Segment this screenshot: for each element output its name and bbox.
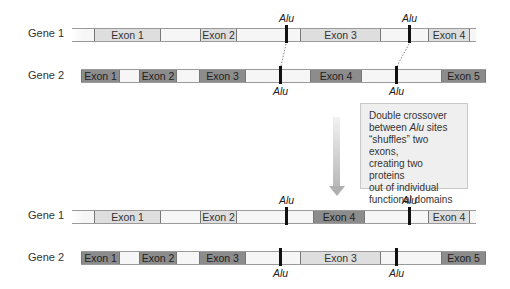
gene1-after-strand: Exon 1 Exon 2 Exon 4 Exon 4 — [72, 210, 476, 224]
gene1-after-exon4: Exon 4 — [428, 211, 470, 223]
gene2-before-label: Gene 2 — [28, 69, 64, 81]
note-line: out of individual — [369, 182, 459, 194]
note-line: “shuffles” two exons, — [369, 134, 459, 158]
gene2-before-exon5: Exon 5 — [441, 70, 486, 82]
alu-marker — [408, 207, 411, 225]
gene2-after-exon3: Exon 3 — [199, 252, 246, 264]
alu-label: Alu — [389, 85, 404, 97]
alu-marker — [285, 207, 288, 225]
alu-marker — [279, 66, 282, 84]
gene2-after-exon1: Exon 1 — [81, 252, 120, 264]
alu-label: Alu — [402, 194, 417, 206]
alu-label: Alu — [273, 85, 288, 97]
alu-label: Alu — [389, 267, 404, 279]
gene1-after-exon2: Exon 2 — [200, 211, 237, 223]
gene2-after-exon2: Exon 2 — [139, 252, 177, 264]
gene2-before-exon3: Exon 3 — [199, 70, 246, 82]
note-line: between Alu sites — [369, 122, 459, 134]
gene2-after-exon5: Exon 5 — [441, 252, 486, 264]
gene2-before-strand: Exon 1 Exon 2 Exon 3 Exon 4 Exon 5 — [81, 69, 486, 83]
gene2-after-strand: Exon 1 Exon 2 Exon 3 Exon 3 Exon 5 — [81, 251, 486, 265]
alu-marker — [279, 248, 282, 266]
down-arrow-icon — [329, 186, 345, 196]
alu-label: Alu — [279, 194, 294, 206]
gene1-after-label: Gene 1 — [28, 209, 64, 221]
down-arrow-shaft — [333, 117, 340, 187]
gene1-after-exon1: Exon 1 — [94, 211, 161, 223]
gene2-after-exon3-shuffled: Exon 3 — [300, 252, 381, 264]
gene2-before-exon1: Exon 1 — [81, 70, 120, 82]
note-line: creating two proteins — [369, 158, 459, 182]
alu-marker — [395, 66, 398, 84]
alu-label: Alu — [273, 267, 288, 279]
gene2-before-exon2: Exon 2 — [139, 70, 177, 82]
gene2-after-label: Gene 2 — [28, 251, 64, 263]
gene1-after-exon4-shuffled: Exon 4 — [313, 211, 365, 223]
gene2-before-exon4: Exon 4 — [310, 70, 362, 82]
alu-marker — [395, 248, 398, 266]
note-line: Double crossover — [369, 110, 459, 122]
explanation-note: Double crossover between Alu sites “shuf… — [360, 103, 468, 189]
